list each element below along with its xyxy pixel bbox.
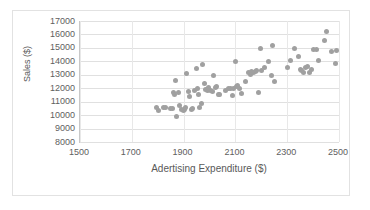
y-tick-label: 8000 <box>29 138 75 147</box>
scatter-point <box>316 58 321 63</box>
scatter-point <box>322 38 327 43</box>
gridline-horizontal <box>80 142 339 143</box>
y-tick-label: 10000 <box>29 111 75 120</box>
gridline-horizontal <box>80 115 339 116</box>
scatter-point <box>292 46 297 51</box>
chart-container: Sales ($) 800090001000011000120001300014… <box>12 10 350 196</box>
scatter-point <box>187 94 192 99</box>
scatter-point <box>333 61 338 66</box>
y-tick-label: 14000 <box>29 57 75 66</box>
gridline-horizontal <box>80 61 339 62</box>
scatter-point <box>196 92 201 97</box>
y-tick-label: 9000 <box>29 124 75 133</box>
scatter-point <box>314 47 319 52</box>
gridline-vertical <box>80 21 81 142</box>
x-tick-label: 1500 <box>54 147 104 157</box>
x-tick-label: 1700 <box>106 147 156 157</box>
y-tick-label: 13000 <box>29 70 75 79</box>
scatter-point <box>288 58 293 63</box>
gridline-vertical <box>132 21 133 142</box>
scatter-point <box>217 92 222 97</box>
scatter-point <box>190 106 195 111</box>
scatter-point <box>194 66 199 71</box>
gridline-vertical <box>235 21 236 142</box>
scatter-point <box>199 101 204 106</box>
scatter-point <box>195 86 200 91</box>
gridline-horizontal <box>80 21 339 22</box>
x-axis-tick-labels: 150017001900210023002500 <box>79 147 339 159</box>
scatter-point <box>211 73 216 78</box>
y-tick-label: 11000 <box>29 97 75 106</box>
x-tick-label: 2300 <box>261 147 311 157</box>
scatter-point <box>230 93 235 98</box>
scatter-point <box>170 106 175 111</box>
gridline-horizontal <box>80 34 339 35</box>
scatter-point <box>269 73 274 78</box>
scatter-point <box>258 46 263 51</box>
scatter-point <box>266 59 271 64</box>
scatter-point <box>183 105 188 110</box>
scatter-point <box>256 90 261 95</box>
scatter-point <box>174 114 179 119</box>
scatter-point <box>285 65 290 70</box>
gridline-vertical <box>339 21 340 142</box>
scatter-point <box>296 54 301 59</box>
x-tick-label: 2500 <box>313 147 363 157</box>
scatter-point <box>243 79 248 84</box>
x-tick-label: 2100 <box>209 147 259 157</box>
y-tick-label: 12000 <box>29 84 75 93</box>
scatter-point <box>324 29 329 34</box>
scatter-point <box>176 90 181 95</box>
scatter-point <box>301 70 306 75</box>
plot-area <box>79 21 339 143</box>
gridline-horizontal <box>80 48 339 49</box>
scatter-point <box>239 91 244 96</box>
y-tick-label: 17000 <box>29 17 75 26</box>
gridline-horizontal <box>80 129 339 130</box>
gridline-vertical <box>184 21 185 142</box>
scatter-point <box>262 65 267 70</box>
x-tick-label: 1900 <box>158 147 208 157</box>
gridline-vertical <box>287 21 288 142</box>
scatter-point <box>309 67 314 72</box>
scatter-point <box>173 78 178 83</box>
scatter-point <box>272 79 277 84</box>
gridline-horizontal <box>80 75 339 76</box>
gridline-horizontal <box>80 102 339 103</box>
y-axis-tick-labels: 8000900010000110001200013000140001500016… <box>13 21 75 143</box>
y-tick-label: 16000 <box>29 30 75 39</box>
y-tick-label: 15000 <box>29 43 75 52</box>
x-axis-title: Adertising Expenditure ($) <box>79 163 339 174</box>
scatter-point <box>237 86 242 91</box>
scatter-point <box>200 62 205 67</box>
scatter-point <box>210 89 215 94</box>
scatter-point <box>233 59 238 64</box>
